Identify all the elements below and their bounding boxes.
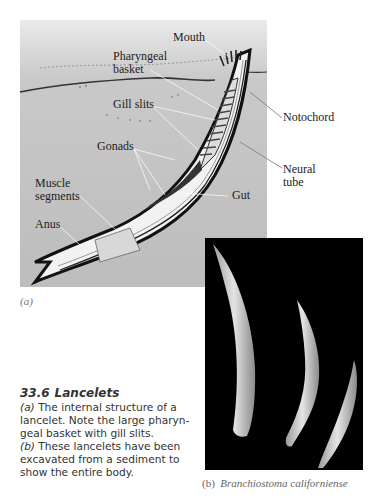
caption-tag: (b)	[20, 440, 35, 452]
caption-line: geal basket with gill slits.	[20, 427, 200, 440]
lancelet-specimens-image	[205, 238, 363, 470]
caption-line: (a) The internal structure of a	[20, 401, 200, 414]
caption-line: (b) These lancelets have been	[20, 440, 200, 453]
caption-text: These lancelets have been	[35, 440, 180, 452]
caption-tag: (a)	[20, 401, 35, 413]
caption-line: show the entire body.	[20, 466, 200, 479]
caption-text: The internal structure of a	[35, 401, 177, 413]
label-gill-slits: Gill slits	[113, 98, 154, 111]
figure-number: 33.6	[20, 386, 50, 400]
caption-text: excavated from a sediment to	[20, 453, 180, 465]
label-neural-tube-line2: tube	[283, 176, 304, 189]
label-muscle-segments-line2: segments	[35, 190, 80, 203]
caption-line: lancelet. Note the large pharyn-	[20, 414, 200, 427]
panel-b-caption: (b) Branchiostoma californiense	[202, 477, 348, 489]
species-name: Branchiostoma californiense	[220, 477, 347, 489]
label-notochord: Notochord	[283, 111, 334, 124]
figure-title: Lancelets	[55, 386, 120, 400]
caption-line: excavated from a sediment to	[20, 453, 200, 466]
caption-title: 33.6Lancelets	[20, 386, 200, 400]
label-gonads: Gonads	[97, 140, 134, 153]
label-mouth: Mouth	[173, 31, 205, 44]
caption-text: lancelet. Note the large pharyn-	[20, 414, 189, 426]
caption-text: show the entire body.	[20, 466, 134, 478]
label-gut: Gut	[232, 189, 250, 202]
lancelet-photo-panel-b	[205, 238, 363, 470]
caption-text: geal basket with gill slits.	[20, 427, 154, 439]
label-pharyngeal-basket-line2: basket	[113, 63, 144, 76]
figure-caption: 33.6Lancelets (a) The internal structure…	[20, 386, 200, 479]
label-anus: Anus	[35, 218, 60, 231]
panel-b-sublabel: (b)	[202, 477, 215, 489]
panel-a-sublabel: (a)	[20, 295, 33, 307]
